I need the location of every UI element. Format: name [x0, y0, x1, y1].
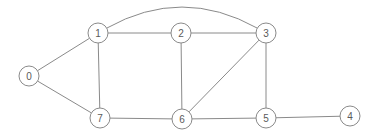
graph-node-2[interactable]: 2 — [171, 23, 191, 43]
graph-edge-1-7 — [98, 43, 100, 108]
graph-node-7[interactable]: 7 — [90, 108, 110, 128]
graph-node-label-7: 7 — [97, 113, 103, 124]
graph-edge-0-7 — [38, 81, 92, 113]
graph-edge-6-7 — [110, 118, 172, 119]
graph-edge-5-4 — [276, 116, 340, 118]
graph-node-3[interactable]: 3 — [256, 23, 276, 43]
graph-node-label-3: 3 — [263, 28, 269, 39]
graph-edge-0-1 — [37, 38, 89, 70]
graph-edge-5-6 — [192, 118, 256, 119]
graph-node-label-0: 0 — [26, 71, 32, 82]
graph-node-4[interactable]: 4 — [340, 106, 360, 126]
graph-node-1[interactable]: 1 — [88, 23, 108, 43]
graph-node-label-4: 4 — [347, 111, 353, 122]
graph-node-label-6: 6 — [179, 114, 185, 125]
graph-node-label-5: 5 — [263, 113, 269, 124]
graph-node-label-1: 1 — [95, 28, 101, 39]
graph-node-label-2: 2 — [178, 28, 184, 39]
graph-node-5[interactable]: 5 — [256, 108, 276, 128]
edge-layer — [37, 7, 340, 119]
graph-edge-3-6 — [189, 40, 259, 112]
graph-node-0[interactable]: 0 — [19, 66, 39, 86]
graph-node-6[interactable]: 6 — [172, 109, 192, 129]
graph-svg: 01234567 — [0, 0, 373, 137]
graph-edge-2-6 — [181, 43, 182, 109]
node-layer: 01234567 — [19, 23, 360, 129]
graph-diagram-canvas: 01234567 — [0, 0, 373, 137]
